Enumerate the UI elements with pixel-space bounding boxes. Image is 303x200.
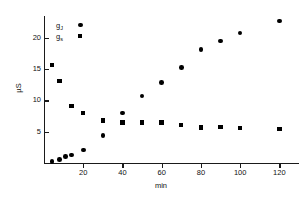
x-tick-label-20: 20: [73, 169, 93, 177]
y-tick-label-10: 10: [25, 96, 41, 104]
y-axis-label: µS: [15, 77, 23, 99]
data-point-g_J: [218, 39, 223, 44]
x-axis-label: min: [146, 182, 176, 190]
x-tick-label-40: 40: [112, 169, 132, 177]
y-tick-10: [45, 100, 49, 101]
data-point-g_s: [57, 79, 61, 83]
chart-legend: gJgs: [56, 20, 96, 42]
data-point-g_s: [101, 118, 105, 122]
legend-marker-square-icon: [78, 34, 82, 38]
data-point-g_J: [57, 157, 62, 162]
data-point-g_s: [140, 120, 144, 124]
data-point-g_s: [277, 127, 281, 131]
data-point-g_J: [81, 148, 86, 153]
y-tick-label-15: 15: [25, 65, 41, 73]
y-tick-label-5: 5: [25, 128, 41, 136]
y-tick-20: [45, 38, 49, 39]
data-point-g_J: [199, 47, 204, 52]
data-point-g_s: [69, 104, 73, 108]
data-point-g_s: [81, 111, 85, 115]
data-point-g_J: [140, 94, 145, 99]
legend-item-g_J: gJ: [56, 20, 96, 31]
x-tick-label-80: 80: [191, 169, 211, 177]
x-tick-label-120: 120: [269, 169, 289, 177]
data-point-g_J: [159, 80, 164, 85]
data-point-g_J: [179, 65, 184, 70]
legend-label-g_J: gJ: [56, 21, 63, 31]
data-point-g_J: [101, 133, 106, 138]
legend-marker-circle-icon: [78, 23, 83, 28]
legend-item-g_s: gs: [56, 31, 96, 42]
x-tick-label-60: 60: [152, 169, 172, 177]
scatter-chart-figure: µS min 510152020406080100120 gJgs: [0, 0, 303, 200]
data-point-g_s: [50, 63, 54, 67]
legend-label-g_s: gs: [56, 32, 63, 42]
data-point-g_J: [63, 154, 68, 159]
data-point-g_J: [238, 31, 243, 36]
data-point-g_J: [69, 153, 74, 158]
data-point-g_s: [199, 125, 203, 129]
y-tick-label-20: 20: [25, 34, 41, 42]
y-tick-5: [45, 132, 49, 133]
data-point-g_s: [159, 120, 163, 124]
data-point-g_J: [277, 19, 282, 24]
data-point-g_J: [120, 111, 125, 116]
data-point-g_s: [218, 125, 222, 129]
data-point-g_s: [179, 123, 183, 127]
data-point-g_s: [238, 126, 242, 130]
data-point-g_s: [120, 120, 124, 124]
x-tick-label-100: 100: [230, 169, 250, 177]
y-tick-15: [45, 69, 49, 70]
data-point-g_J: [50, 159, 55, 164]
